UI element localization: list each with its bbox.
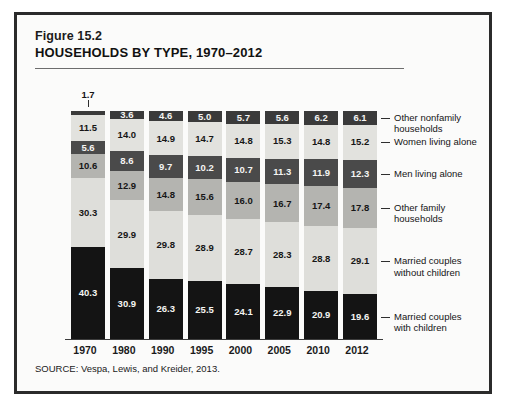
bar-segment: 29.8 <box>149 211 183 279</box>
x-axis-tick-label: 1990 <box>143 343 183 357</box>
figure-frame: Figure 15.2 HOUSEHOLDS BY TYPE, 1970–201… <box>14 12 492 394</box>
legend-item-label: Men living alone <box>394 168 477 180</box>
bar-segment: 14.8 <box>226 124 260 158</box>
bar-segment: 20.9 <box>304 291 338 339</box>
bar-segment-value: 22.9 <box>273 308 292 318</box>
bar-segment-value: 11.5 <box>79 123 97 133</box>
bar-segment-value: 28.7 <box>234 247 253 257</box>
bar-segment-value: 12.9 <box>118 181 137 191</box>
bar-segment-value: 6.1 <box>353 113 366 123</box>
legend-item: Married couples with children <box>381 311 477 334</box>
source-note: SOURCE: Vespa, Lewis, and Kreider, 2013. <box>35 363 220 375</box>
bar-segment-value: 15.6 <box>195 192 214 202</box>
legend-leader-line <box>381 261 390 262</box>
chart-legend: Other nonfamily householdsWomen living a… <box>381 111 477 339</box>
bar-segment: 15.6 <box>188 179 222 215</box>
bar-segment: 28.9 <box>188 215 222 281</box>
bar-segment: 28.3 <box>265 222 299 286</box>
bar-segment-value: 28.9 <box>195 243 214 253</box>
bar-segment: 6.1 <box>343 111 377 125</box>
bar-segment-value: 17.4 <box>312 201 331 211</box>
bar-segment-value: 4.6 <box>159 111 172 121</box>
figure-title: HOUSEHOLDS BY TYPE, 1970–2012 <box>35 45 473 61</box>
bar-segment-value: 11.9 <box>312 168 330 178</box>
x-axis-tick-labels: 19701980199019952000200520102012 <box>71 343 377 359</box>
bar-segment-value: 17.8 <box>351 203 370 213</box>
bar-segment-value: 25.5 <box>195 305 214 315</box>
bar-segment-value: 11.3 <box>273 167 291 177</box>
bar-column: 4.614.99.714.829.826.3 <box>149 111 183 339</box>
bar-segment: 24.1 <box>226 284 260 339</box>
bar-segment-value: 15.3 <box>273 136 292 146</box>
legend-leader-line <box>381 174 390 175</box>
bar-column: 6.115.212.317.829.119.6 <box>343 111 377 339</box>
bar-segment: 4.6 <box>149 111 183 121</box>
bar-segment-value: 19.6 <box>351 312 370 322</box>
legend-item-label: Other nonfamily households <box>394 112 477 135</box>
x-axis-tick-label: 1995 <box>182 343 222 357</box>
figure-number: Figure 15.2 <box>35 29 473 44</box>
bar-segment-value: 16.7 <box>273 199 292 209</box>
legend-leader-line <box>381 118 390 119</box>
legend-item: Women living alone <box>381 136 477 148</box>
legend-leader-line <box>381 142 390 143</box>
bar-segment-value: 14.8 <box>156 190 175 200</box>
bar-segment: 16.0 <box>226 182 260 218</box>
bar-segment-value: 26.3 <box>156 304 175 314</box>
bar-segment: 17.8 <box>343 188 377 229</box>
stacked-bars: 11.55.610.630.340.33.614.08.612.929.930.… <box>71 111 377 339</box>
bar-segment: 11.5 <box>71 115 105 141</box>
callout-stem <box>88 100 89 107</box>
bar-segment: 5.6 <box>71 141 105 154</box>
x-axis-tick-label: 1970 <box>65 343 105 357</box>
title-divider <box>35 68 404 69</box>
bar-segment: 22.9 <box>265 287 299 339</box>
legend-item: Other nonfamily households <box>381 112 477 135</box>
bar-segment: 12.9 <box>110 171 144 200</box>
bar-column: 5.714.810.716.028.724.1 <box>226 111 260 339</box>
bar-segment: 15.2 <box>343 125 377 160</box>
bar-segment: 14.9 <box>149 121 183 155</box>
bar-segment: 6.2 <box>304 111 338 125</box>
bar-segment-value: 29.8 <box>156 240 175 250</box>
bar-segment-value: 14.7 <box>195 134 214 144</box>
bar-segment: 16.7 <box>265 184 299 222</box>
x-axis-tick-label: 1980 <box>104 343 144 357</box>
bar-segment: 14.8 <box>149 178 183 212</box>
bar-segment: 29.9 <box>110 200 144 268</box>
bar-segment: 10.7 <box>226 158 260 182</box>
bar-segment-value: 6.2 <box>315 113 328 123</box>
bar-segment-value: 10.2 <box>195 163 214 173</box>
callout-value: 1.7 <box>71 89 105 100</box>
bar-segment: 25.5 <box>188 281 222 339</box>
bar-segment-value: 14.8 <box>234 136 253 146</box>
bar-segment: 30.3 <box>71 178 105 247</box>
x-axis-tick-label: 2012 <box>337 343 377 357</box>
bar-segment-value: 5.0 <box>198 112 211 122</box>
x-axis-tick-label: 2005 <box>259 343 299 357</box>
bar-segment: 40.3 <box>71 247 105 339</box>
legend-item: Married couples without children <box>381 255 477 278</box>
legend-leader-line <box>381 208 390 209</box>
bar-segment: 28.7 <box>226 219 260 284</box>
x-axis-tick-label: 2010 <box>298 343 338 357</box>
bar-segment-value: 29.1 <box>351 256 370 266</box>
bar-segment-value: 30.9 <box>118 299 137 309</box>
bar-segment-value: 5.6 <box>81 143 94 153</box>
bar-segment-value: 10.7 <box>234 165 253 175</box>
bar-segment: 10.6 <box>71 154 105 178</box>
bar-segment-value: 24.1 <box>234 307 253 317</box>
bar-segment: 19.6 <box>343 294 377 339</box>
bar-segment: 10.2 <box>188 156 222 179</box>
bar-segment-value: 14.8 <box>312 137 331 147</box>
bar-segment-value: 5.6 <box>276 113 289 123</box>
bar-segment: 14.0 <box>110 119 144 151</box>
bar-segment-value: 14.0 <box>118 130 137 140</box>
bar-segment-value: 14.9 <box>156 134 175 144</box>
bar-column: 11.55.610.630.340.3 <box>71 111 105 339</box>
bar-segment-value: 29.9 <box>118 230 137 240</box>
bar-segment-value: 28.3 <box>273 250 292 260</box>
bar-segment-value: 16.0 <box>234 196 253 206</box>
bar-segment-value: 9.7 <box>159 162 172 172</box>
bar-segment: 12.3 <box>343 160 377 188</box>
